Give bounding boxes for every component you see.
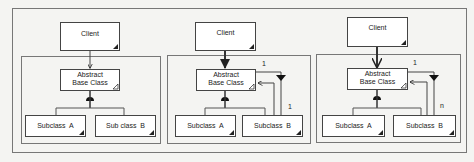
multiplicity-top: 1 <box>413 59 417 66</box>
client-label: Client <box>195 29 256 37</box>
abstract-label-line1: Abstract <box>347 70 408 78</box>
subclass-a-label: Subclass A <box>322 122 385 130</box>
subclass-a-label: Subclass A <box>175 122 236 130</box>
abstract-label-line2: Base Class <box>347 78 408 86</box>
client-label: Client <box>347 24 408 32</box>
subclass-b-label: Subclass B <box>242 122 303 130</box>
aggregation-diamond-icon <box>429 75 439 81</box>
multiplicity-side: 1 <box>288 103 292 110</box>
multiplicity-top: 1 <box>262 60 266 67</box>
client-label: Client <box>60 30 120 38</box>
abstract-label-line1: Abstract <box>196 71 256 79</box>
subclass-b-label: Sub class B <box>95 122 156 130</box>
aggregation-diamond-icon <box>276 75 286 81</box>
multiplicity-side: n <box>440 102 444 109</box>
abstract-label-line2: Base Class <box>60 79 120 87</box>
subclass-a-label: Subclass A <box>25 122 86 130</box>
abstract-label-line1: Abstract <box>60 71 120 79</box>
client-box <box>348 18 408 47</box>
subclass-b-label: Subclass B <box>393 122 456 130</box>
abstract-label-line2: Base Class <box>196 79 256 87</box>
